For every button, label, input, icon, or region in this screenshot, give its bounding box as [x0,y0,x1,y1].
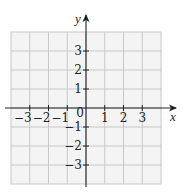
x-axis-label: x [169,109,176,124]
y-tick-label: 3 [74,44,82,58]
x-tick-label: 0 [76,106,84,120]
x-tick-label: 2 [120,111,128,125]
x-tick-label: −3 [14,111,32,125]
y-tick-label: 1 [74,82,82,96]
y-axis-label: y [73,11,81,26]
coordinate-plane: −3−2−10123 321−1−2−3 x y [0,0,185,193]
x-tick-label: 3 [138,111,146,125]
y-tick-label: −3 [64,158,82,172]
x-tick-label: −2 [33,111,51,125]
y-tick-label: −2 [64,139,82,153]
x-tick-label: 1 [101,111,109,125]
y-tick-label: 2 [74,63,82,77]
y-tick-label: −1 [64,120,82,134]
